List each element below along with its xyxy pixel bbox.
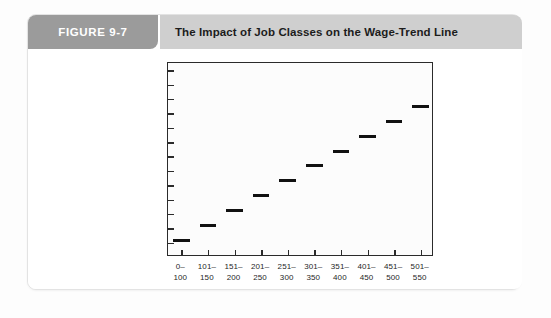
- x-axis-tick: [288, 250, 290, 256]
- x-axis-label-line: 501–: [400, 261, 440, 272]
- page-background: FIGURE 9-7 The Impact of Job Classes on …: [0, 0, 551, 318]
- figure-number-block: FIGURE 9-7: [28, 15, 158, 49]
- y-axis-tick: [168, 70, 174, 72]
- figure-title-text: The Impact of Job Classes on the Wage-Tr…: [175, 26, 458, 38]
- plot-frame: [167, 62, 433, 256]
- x-axis-tick: [368, 250, 370, 256]
- figure-card: FIGURE 9-7 The Impact of Job Classes on …: [27, 14, 521, 290]
- y-axis-tick: [168, 171, 174, 173]
- step-bar: [279, 179, 295, 182]
- figure-title-block: The Impact of Job Classes on the Wage-Tr…: [160, 15, 522, 49]
- step-bar: [359, 135, 375, 138]
- plot-area: [168, 63, 432, 255]
- y-axis-tick: [168, 142, 174, 144]
- x-axis-tick: [314, 250, 316, 256]
- y-axis-tick: [168, 228, 174, 230]
- x-axis-tick: [341, 250, 343, 256]
- x-axis-label-line: 550: [400, 272, 440, 283]
- y-axis-tick: [168, 128, 174, 130]
- x-axis-label: 501–550: [400, 261, 440, 283]
- figure-number-label: FIGURE 9-7: [58, 26, 127, 38]
- step-bar: [173, 239, 189, 242]
- y-axis-tick: [168, 200, 174, 202]
- step-bar: [412, 105, 428, 108]
- x-axis-tick: [394, 250, 396, 256]
- x-axis-tick: [181, 250, 183, 256]
- step-bar: [253, 194, 269, 197]
- x-axis-tick: [421, 250, 423, 256]
- step-bar: [333, 150, 349, 153]
- figure-header: FIGURE 9-7 The Impact of Job Classes on …: [28, 15, 522, 49]
- y-axis-tick: [168, 214, 174, 216]
- y-axis-tick: [168, 243, 174, 245]
- step-bar: [226, 209, 242, 212]
- chart-body: Amount, $ 0–100101–150151–200201–250251–…: [28, 49, 522, 289]
- x-axis-tick: [208, 250, 210, 256]
- y-axis-tick: [168, 85, 174, 87]
- x-axis-tick: [235, 250, 237, 256]
- step-bar: [306, 164, 322, 167]
- step-bar: [200, 224, 216, 227]
- y-axis-tick: [168, 99, 174, 101]
- y-axis-tick: [168, 156, 174, 158]
- y-axis-tick: [168, 113, 174, 115]
- x-axis-tick: [261, 250, 263, 256]
- step-bar: [386, 120, 402, 123]
- y-axis-tick: [168, 185, 174, 187]
- x-axis-labels: 0–100101–150151–200201–250251–300301–350…: [167, 259, 433, 289]
